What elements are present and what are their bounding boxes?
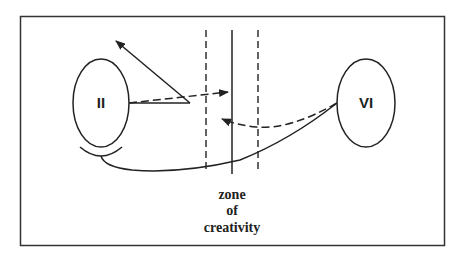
zone-label-line-3: creativity <box>204 220 261 235</box>
diagram-canvas: II VI zone of creativity <box>0 0 469 258</box>
zone-label-line-1: zone <box>218 187 245 202</box>
connector-II-triangle <box>116 41 190 103</box>
connector-VI-to-II-solid-curve <box>101 103 337 171</box>
node-II-label: II <box>97 94 105 111</box>
node-II: II <box>73 59 129 156</box>
zone-of-creativity-lines <box>206 30 258 174</box>
zone-label-line-2: of <box>226 203 238 218</box>
diagram-svg: II VI zone of creativity <box>0 0 469 258</box>
node-II-cup-arc <box>80 147 122 156</box>
node-VI-label: VI <box>359 94 373 111</box>
zone-of-creativity-label: zone of creativity <box>204 187 261 235</box>
node-VI: VI <box>337 59 395 147</box>
connector-up-left-arrow <box>116 41 190 103</box>
